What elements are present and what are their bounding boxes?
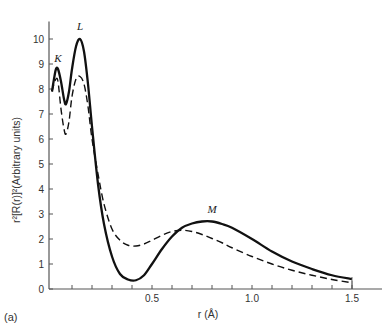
y-tick-label: 5 (38, 159, 44, 170)
peak-label-m: M (206, 203, 217, 215)
x-axis-title: r (Å) (198, 308, 218, 320)
y-tick-label: 2 (38, 234, 44, 245)
y-tick-label: 10 (33, 34, 45, 45)
peak-label-l: L (76, 20, 83, 32)
x-tick-label: 1.0 (245, 293, 259, 304)
y-tick-label: 7 (38, 109, 44, 120)
panel-label: (a) (4, 311, 17, 323)
peak-annotations: KLM (53, 20, 217, 215)
y-tick-label: 8 (38, 84, 44, 95)
y-tick-label: 1 (38, 259, 44, 270)
plot-series (52, 39, 352, 289)
y-axis: 012345678910 (33, 22, 53, 295)
y-tick-label: 9 (38, 59, 44, 70)
radial-distribution-chart: 012345678910 0.51.01.5 KLM r²[R(r)]²(Arb… (0, 0, 391, 332)
solid-curve (52, 39, 352, 281)
y-tick-label: 3 (38, 209, 44, 220)
y-axis-title: r²[R(r)]²(Arbitrary units) (10, 117, 22, 223)
y-tick-label: 4 (38, 184, 44, 195)
x-tick-label: 0.5 (145, 293, 159, 304)
x-tick-label: 1.5 (345, 293, 359, 304)
y-tick-label: 0 (38, 284, 44, 295)
peak-label-k: K (53, 52, 62, 64)
x-axis: 0.51.01.5 (49, 285, 382, 304)
y-tick-label: 6 (38, 134, 44, 145)
